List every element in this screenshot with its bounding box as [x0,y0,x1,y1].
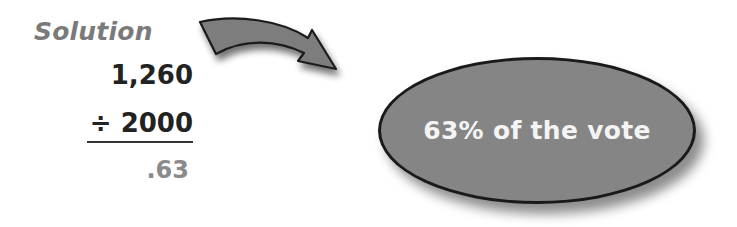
curved-arrow-icon [186,6,356,86]
solution-heading: Solution [34,17,153,46]
result-ellipse: 63% of the vote [378,57,696,204]
quotient: .63 [146,156,189,184]
divisor-line: ÷ 2000 [87,105,193,143]
result-text: 63% of the vote [423,116,651,145]
result-ellipse-container: 63% of the vote [372,52,712,222]
dividend: 1,260 [111,60,193,90]
